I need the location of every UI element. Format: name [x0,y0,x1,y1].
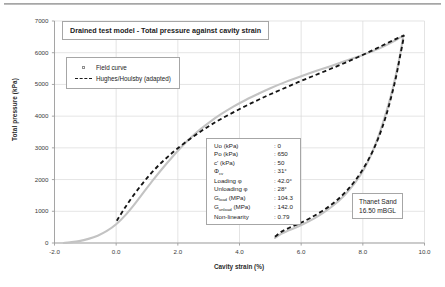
site-annotation-box: Thanet Sand 16.50 mBGL [352,193,403,219]
y-axis-title: Total pressure (kPa) [11,70,18,150]
parameter-row: Uo (kPa): 0 [214,142,293,150]
chart-title-text: Drained test model - Total pressure agai… [70,26,261,35]
parameter-value: : 31° [274,167,287,176]
parameter-row: Po (kPa): 650 [214,150,293,158]
parameter-row: Loading φ: 42.0° [214,177,293,185]
parameter-key: Uo (kPa) [214,142,274,150]
y-tick-label: 3000 [17,144,49,151]
parameter-value: : 42.0° [274,177,292,185]
parameter-key: Unloading φ [214,185,274,193]
parameter-value: : 50 [274,159,284,167]
site-name: Thanet Sand [359,197,397,206]
legend-item-field-curve: Field curve [73,62,171,73]
chart-legend: Field curve Hughes/Houlsby (adapted) [66,57,180,89]
y-tick-label: 0 [17,239,49,246]
x-tick-label: 2.0 [161,248,195,255]
y-tick-label: 1000 [17,207,49,214]
parameter-key: Po (kPa) [214,150,274,158]
parameter-value: : 650 [274,150,288,158]
site-depth: 16.50 mBGL [359,206,397,215]
x-tick-label: 10.0 [408,248,442,255]
parameters-box: Uo (kPa): 0Po (kPa): 650c' (kPa): 50Φcv:… [206,138,301,225]
parameter-value: : 28° [274,185,287,193]
y-tick-label: 2000 [17,176,49,183]
chart-title-box: Drained test model - Total pressure agai… [62,21,269,40]
parameter-key: Gunload (MPa) [214,203,274,212]
parameter-key: Gload (MPa) [214,194,274,203]
parameter-value: : 0.79 [274,213,289,221]
x-tick-label: 4.0 [223,248,257,255]
y-tick-label: 4000 [17,112,49,119]
dashed-line-icon [73,78,93,79]
parameter-row: Unloading φ: 28° [214,185,293,193]
legend-item-model-curve: Hughes/Houlsby (adapted) [73,73,171,84]
x-tick-label: 0.0 [99,248,133,255]
parameter-key: Non-linearity [214,213,274,221]
parameter-row: Gload (MPa): 104.3 [214,194,293,203]
x-tick-label: -2.0 [38,248,72,255]
x-axis-title: Cavity strain (%) [54,263,424,270]
y-tick-label: 6000 [17,49,49,56]
legend-label-model-curve: Hughes/Houlsby (adapted) [93,75,171,82]
chart-figure: 70006000500040003000200010000 -2.00.02.0… [0,0,445,287]
y-tick-label: 7000 [17,17,49,24]
parameter-row: Gunload (MPa): 142.0 [214,203,293,212]
parameter-key: Φcv [214,167,274,176]
x-tick-label: 8.0 [346,248,380,255]
parameter-row: Φcv: 31° [214,167,293,176]
parameter-key: c' (kPa) [214,159,274,167]
y-tick-label: 5000 [17,80,49,87]
x-tick-label: 6.0 [284,248,318,255]
parameter-value: : 104.3 [274,194,293,203]
parameter-value: : 142.0 [274,203,293,212]
parameter-value: : 0 [274,142,281,150]
square-marker-icon [73,66,93,69]
parameter-row: c' (kPa): 50 [214,159,293,167]
parameter-key: Loading φ [214,177,274,185]
legend-label-field-curve: Field curve [93,64,127,71]
parameter-row: Non-linearity: 0.79 [214,213,293,221]
